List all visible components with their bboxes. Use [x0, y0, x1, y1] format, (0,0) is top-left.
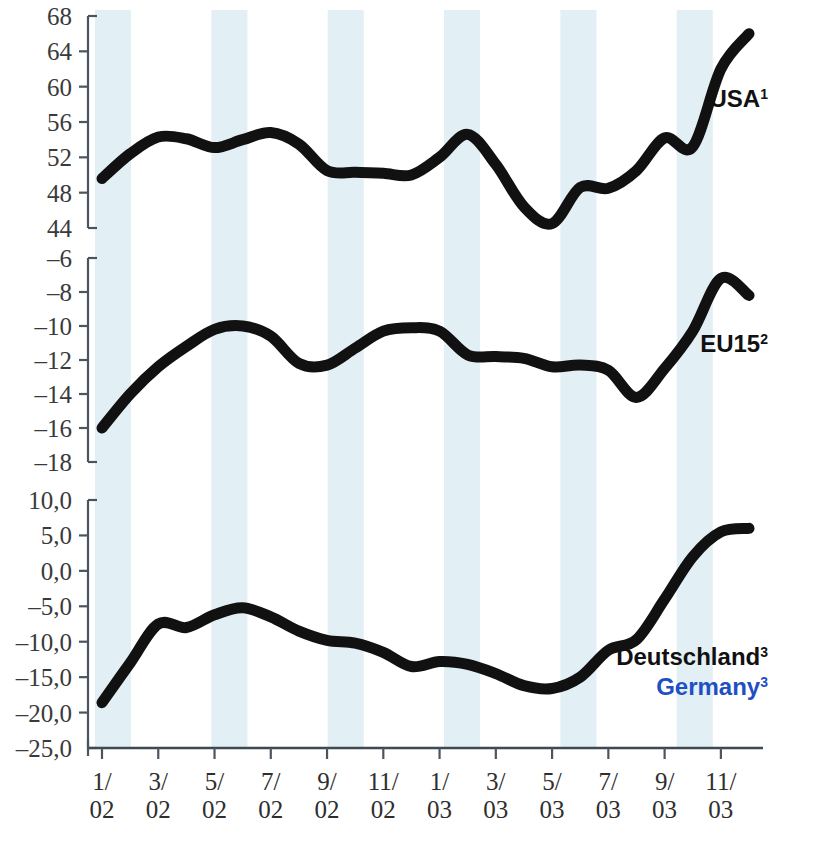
data-line-usa: [102, 34, 749, 225]
series-label-germany-alt: Germany3: [656, 673, 768, 700]
x-tick-label-year: 03: [596, 796, 621, 823]
x-tick-label-month: 7/: [261, 768, 281, 795]
x-tick-label-month: 9/: [317, 768, 337, 795]
x-tick-label-month: 11/: [705, 768, 736, 795]
x-tick-label-month: 9/: [655, 768, 675, 795]
y-tick-label: 56: [47, 109, 72, 136]
x-tick-label-year: 02: [258, 796, 283, 823]
y-tick-label: –6: [46, 245, 72, 272]
chart-canvas: 68646056524844–6–8–10–12–14–16–1810,05,0…: [0, 0, 831, 854]
panel-usa: 68646056524844: [47, 3, 749, 242]
y-tick-label: –8: [46, 279, 72, 306]
panel-eu15: –6–8–10–12–14–16–18: [34, 245, 750, 476]
x-axis: 1/023/025/027/029/0211/021/033/035/037/0…: [88, 740, 763, 823]
three-panel-line-chart: 68646056524844–6–8–10–12–14–16–1810,05,0…: [0, 0, 831, 854]
background-band: [211, 10, 247, 748]
y-tick-label: 52: [47, 144, 72, 171]
y-tick-label: –12: [34, 347, 73, 374]
series-label-usa: USA1: [710, 85, 769, 112]
background-band: [95, 10, 131, 748]
data-line-eu15: [102, 277, 749, 428]
y-tick-label: 10,0: [28, 487, 72, 514]
x-tick-label-year: 02: [146, 796, 171, 823]
x-tick-label-year: 02: [90, 796, 115, 823]
y-tick-label: 64: [47, 38, 73, 65]
x-tick-label-year: 03: [427, 796, 452, 823]
x-tick-label-year: 02: [315, 796, 340, 823]
x-tick-label-month: 11/: [368, 768, 399, 795]
x-tick-label-month: 5/: [205, 768, 225, 795]
data-line-germany: [102, 528, 749, 702]
y-tick-label: –5,0: [27, 593, 72, 620]
series-label-germany: Deutschland3: [616, 643, 768, 670]
x-tick-label-year: 03: [652, 796, 677, 823]
y-tick-label: 44: [47, 215, 73, 242]
y-tick-label: 68: [47, 3, 72, 30]
y-tick-label: –16: [34, 415, 73, 442]
y-tick-label: –18: [34, 449, 73, 476]
x-tick-label-month: 1/: [430, 768, 450, 795]
x-tick-label-year: 02: [202, 796, 227, 823]
x-tick-label-month: 3/: [149, 768, 169, 795]
x-tick-label-year: 03: [483, 796, 508, 823]
x-tick-label-month: 3/: [486, 768, 506, 795]
background-band: [560, 10, 596, 748]
x-tick-label-month: 5/: [542, 768, 562, 795]
y-tick-label: –20,0: [15, 700, 72, 727]
y-tick-label: 60: [47, 74, 72, 101]
y-tick-label: –10,0: [15, 629, 72, 656]
y-tick-label: 0,0: [41, 558, 72, 585]
y-tick-label: 5,0: [41, 522, 72, 549]
x-tick-label-year: 03: [540, 796, 565, 823]
x-tick-label-month: 7/: [599, 768, 619, 795]
x-tick-label-year: 02: [371, 796, 396, 823]
y-tick-label: –25,0: [15, 735, 72, 762]
y-tick-label: –15,0: [15, 664, 72, 691]
y-tick-label: –10: [34, 313, 73, 340]
background-band: [444, 10, 480, 748]
y-tick-label: 48: [47, 180, 72, 207]
x-tick-label-month: 1/: [92, 768, 112, 795]
x-tick-label-year: 03: [708, 796, 733, 823]
series-label-eu15: EU152: [700, 330, 768, 357]
y-tick-label: –14: [34, 381, 73, 408]
